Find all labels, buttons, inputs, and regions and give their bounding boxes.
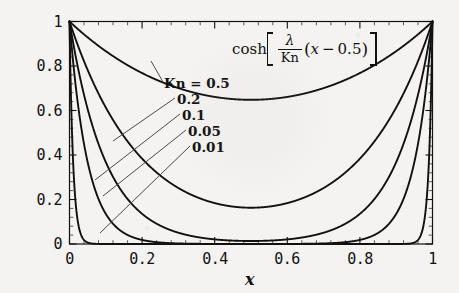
formula-bracket-close xyxy=(368,32,377,66)
series-label-kn-0-01: 0.01 xyxy=(192,139,225,155)
leader-kn-0-2 xyxy=(113,98,175,141)
series-label-kn-0-2: 0.2 xyxy=(177,91,201,107)
series-label-kn-0-05: 0.05 xyxy=(188,123,221,139)
x-tick-label-1: 1 xyxy=(418,250,447,268)
formula-function: cosh xyxy=(232,40,267,58)
formula-annotation: cosh λ Kn ( x − 0.5 ) xyxy=(232,32,377,66)
formula-variable: x xyxy=(311,40,319,58)
leader-kn-0-01 xyxy=(100,146,190,233)
x-tick-label-0-6: 0.6 xyxy=(262,250,312,268)
x-tick-label-0-2: 0.2 xyxy=(117,250,167,268)
y-tick-label-0-8: 0.8 xyxy=(10,57,62,75)
formula-denominator: Kn xyxy=(278,51,302,65)
formula-minus: − xyxy=(319,40,338,58)
y-tick-label-0-4: 0.4 xyxy=(10,146,62,164)
x-tick-label-0-8: 0.8 xyxy=(335,250,385,268)
y-tick-label-0-2: 0.2 xyxy=(10,191,62,209)
x-axis-title: x xyxy=(245,270,255,289)
x-tick-label-0-4: 0.4 xyxy=(190,250,240,268)
x-tick-label-0: 0 xyxy=(55,250,84,268)
y-tick-label-1: 1 xyxy=(22,13,62,31)
formula-fraction: λ Kn xyxy=(278,33,302,65)
figure-container: 1 0.8 0.6 0.4 0.2 0 0 0.2 0.4 0.6 0.8 1 … xyxy=(0,0,459,293)
y-tick-label-0-6: 0.6 xyxy=(10,102,62,120)
formula-bracket-open xyxy=(267,32,276,66)
formula-paren-close: ) xyxy=(361,39,368,59)
formula-offset: 0.5 xyxy=(338,40,362,58)
series-label-kn-0-1: 0.1 xyxy=(182,107,206,123)
formula-paren-open: ( xyxy=(304,39,311,59)
formula-numerator: λ xyxy=(282,33,297,48)
series-label-kn-0-5: Kn = 0.5 xyxy=(164,75,230,91)
